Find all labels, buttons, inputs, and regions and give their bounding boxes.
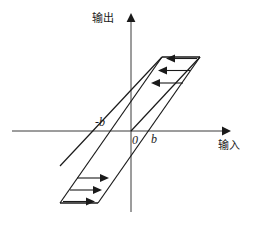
arrow-right-icon [86,198,95,206]
direction-arrow-right-2 [70,186,102,194]
x-axis-arrowhead-icon [222,127,231,136]
x-tick-label-negative-b: -b [95,116,105,128]
y-axis-label: 输出 [92,13,114,24]
loop-edge-left-slant-upper [60,57,162,166]
arrow-left-icon [166,55,175,63]
direction-arrow-left-1 [166,55,197,63]
y-axis-arrowhead-icon [127,13,136,22]
direction-arrow-right-3 [63,198,95,206]
loop-branch-right [98,57,200,203]
hysteresis-loop [60,57,200,203]
direction-arrow-right-1 [77,174,109,182]
origin-label: 0 [132,134,138,146]
x-tick-label-positive-b: b [151,133,157,145]
arrow-left-icon [158,67,167,75]
arrow-right-icon [100,174,109,182]
arrow-left-icon [151,79,160,87]
hysteresis-characteristic-figure: 输出 输入 -b 0 b [0,0,263,231]
x-axis-label: 输入 [218,140,240,151]
loop-branch-left [60,57,162,203]
figure-canvas [0,0,263,231]
arrow-right-icon [93,186,102,194]
x-axis [12,127,231,136]
y-axis [127,13,136,212]
